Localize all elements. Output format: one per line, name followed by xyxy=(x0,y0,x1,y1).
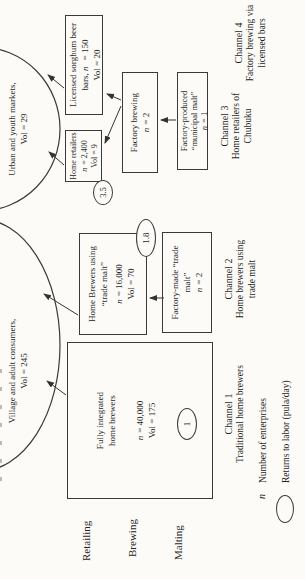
urban-market-name: Urban and youth markets, xyxy=(6,37,18,221)
ch3-home-retailers-box: Home retailers n= 2,400 Vol = 9 xyxy=(65,130,102,182)
row-label-brewing: Brewing xyxy=(126,519,139,557)
ch2-returns-badge: 1.8 xyxy=(136,219,156,257)
ch4-vol: Vol = 20 xyxy=(91,16,103,114)
n-value: = 1 xyxy=(199,112,209,123)
ch3-municipal-malt-box: Factory-produced “municipal malt” n= 1 xyxy=(177,72,208,170)
ch3-brew-n: n= 2 xyxy=(140,73,152,172)
ch3-malt-n: n= 1 xyxy=(199,73,209,169)
n-value: = 150 xyxy=(80,40,90,61)
ch4-line1: Licensed sorghum beer xyxy=(67,16,79,114)
ch2-malt-n: n= 2 xyxy=(193,233,205,332)
ch2-malt-line1: Factory-made “trade xyxy=(169,233,181,332)
marketing-channels-diagram: Retailing Brewing Malting Village and ad… xyxy=(0,0,305,579)
row-label-malting: Malting xyxy=(172,525,185,560)
bars-text: bars, xyxy=(80,73,90,90)
ch2-box-n: n= 16,000 xyxy=(113,234,125,334)
ch2-trade-malt-box: Factory-made “trade malt” n= 2 xyxy=(162,232,212,333)
ch2-box-vol: Vol = 70 xyxy=(125,234,137,334)
row-label-retailing: Retailing xyxy=(80,521,93,561)
ch3-returns-badge: 3.5 xyxy=(93,180,113,205)
ch1-box-line2: home brewers xyxy=(106,343,118,498)
channel-4-title: Channel 4 xyxy=(232,0,245,103)
ch3-retail-n: n= 2,400 xyxy=(80,131,91,181)
urban-market-label: Urban and youth markets, Vol = 29 xyxy=(6,37,30,221)
legend-returns-text: Returns to labor (pula/day) xyxy=(280,380,292,483)
n-symbol: n xyxy=(199,126,209,130)
n-value: = 2,400 xyxy=(80,140,89,165)
channel-1-title: Channel 1 xyxy=(222,344,235,484)
ch3-retail-line1: Home retailers xyxy=(69,131,80,181)
n-value: = 16,000 xyxy=(114,264,124,296)
ch4-licensed-bars-box: Licensed sorghum beer bars, n= 150 Vol =… xyxy=(65,15,103,115)
channel-2-label: Channel 2 Home brewers using trade malt xyxy=(222,219,258,339)
n-value: = 40,000 xyxy=(135,401,145,433)
arrow-factory-brewing-to-home-retailers xyxy=(105,106,121,143)
arrow-ch2-to-village-market xyxy=(44,294,78,315)
channel-1-label: Channel 1 Traditional home brewers xyxy=(222,344,247,484)
channel-3-title: Channel 3 xyxy=(218,66,231,186)
n-symbol: n xyxy=(194,288,204,293)
ch3-factory-brewing-box: Factory brewing n= 2 xyxy=(122,72,158,173)
ch1-returns-badge: 1 xyxy=(177,408,197,440)
n-symbol: n xyxy=(141,128,151,133)
ch3-brew-line1: Factory brewing xyxy=(128,73,140,172)
legend-returns-ellipse xyxy=(276,495,294,523)
channel-2-desc1: Home brewers using xyxy=(235,219,247,339)
n-value: = 2 xyxy=(141,113,151,125)
n-symbol: n xyxy=(80,168,89,172)
n-symbol: n xyxy=(80,66,90,71)
n-symbol: n xyxy=(135,436,145,441)
channel-1-desc: Traditional home brewers xyxy=(235,344,247,484)
legend-n-text: Number of enterprises xyxy=(257,398,269,483)
scanned-diagram-page: Retailing Brewing Malting Village and ad… xyxy=(0,0,305,579)
ch1-box-line1: Fully integrated xyxy=(94,343,106,498)
village-market-volume: Vol = 245 xyxy=(18,271,30,471)
ch2-box-line2: “trade malt” xyxy=(98,234,110,334)
ch1-box-n: n= 40,000 xyxy=(134,343,146,498)
channel-4-label: Channel 4 Factory brewing via licensed b… xyxy=(232,0,268,103)
channel-4-desc2: licensed bars xyxy=(257,0,269,103)
n-value: = 2 xyxy=(194,273,204,285)
ch1-box-vol: Vol = 175 xyxy=(146,343,158,498)
channel-4-desc1: Factory brewing via xyxy=(245,0,257,103)
ch2-box-line1: Home Brewers using xyxy=(86,234,98,334)
channel-2-desc2: trade malt xyxy=(247,219,259,339)
ch4-line2: bars, n= 150 xyxy=(79,16,91,114)
ch3-malt-line2: “municipal malt” xyxy=(189,73,199,169)
n-symbol: n xyxy=(114,299,124,304)
urban-market-volume: Vol = 29 xyxy=(18,37,30,221)
channel-2-title: Channel 2 xyxy=(222,219,235,339)
village-market-label: Village and adult consumers, Vol = 245 xyxy=(6,271,30,471)
village-market-name: Village and adult consumers, xyxy=(6,271,18,471)
arrow-licensed-bars-to-urban-market xyxy=(48,75,64,88)
ch3-malt-line1: Factory-produced xyxy=(179,73,189,169)
legend-n-symbol: n xyxy=(256,494,267,499)
ch2-malt-line2: malt” xyxy=(181,233,193,332)
arrow-factory-brewing-to-licensed-bars xyxy=(107,94,121,100)
ch3-retail-vol: Vol = 9 xyxy=(90,131,101,181)
